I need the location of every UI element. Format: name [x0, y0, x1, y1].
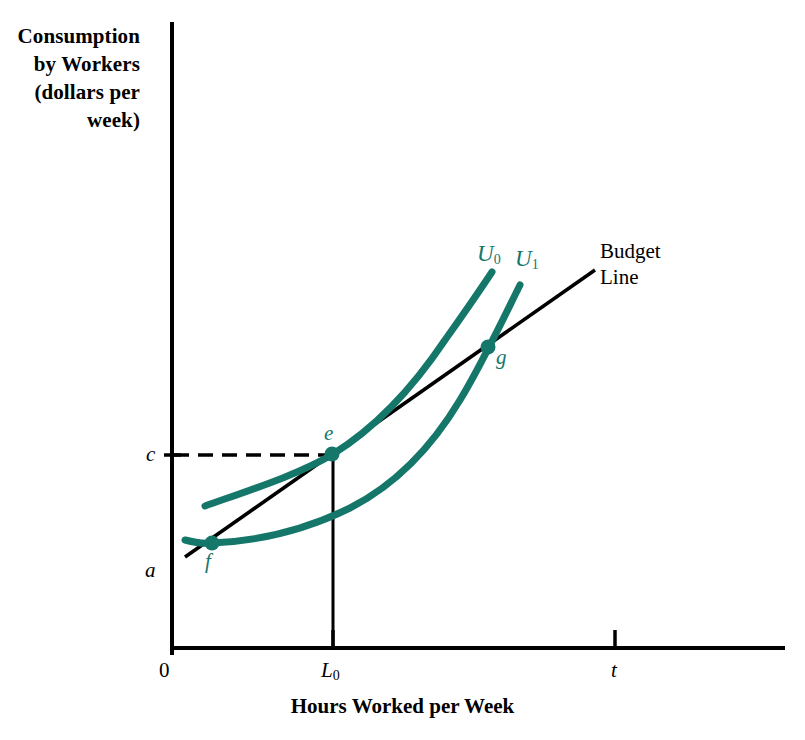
curve-label-u0-text: U — [477, 241, 494, 266]
curve-label-u1: U1 — [515, 246, 539, 273]
y-axis-title: Consumption by Workers (dollars per week… — [4, 22, 140, 134]
curve-label-u1-text: U — [515, 246, 532, 271]
x-axis-title: Hours Worked per Week — [0, 694, 805, 719]
curve-label-u1-sub: 1 — [532, 257, 539, 272]
point-g-marker — [481, 340, 496, 355]
curve-label-u0: U0 — [477, 241, 501, 268]
indifference-curve-u1 — [185, 285, 520, 543]
y-tick-label-c: c — [146, 442, 155, 467]
indifference-curve-u0 — [205, 272, 492, 506]
point-label-f: f — [205, 549, 211, 574]
x-tick-label-l0-sub: 0 — [333, 668, 340, 683]
budget-line-annotation: Budget Line — [600, 238, 661, 290]
x-tick-label-t: t — [611, 658, 617, 683]
y-tick-label-a: a — [145, 558, 156, 583]
budget-line-annotation-line2: Line — [600, 264, 661, 290]
x-tick-label-zero: 0 — [159, 658, 170, 683]
x-tick-label-l0-text: L — [321, 658, 333, 682]
budget-line — [185, 270, 595, 557]
budget-line-annotation-line1: Budget — [600, 238, 661, 264]
indifference-curve-figure: Consumption by Workers (dollars per week… — [0, 0, 805, 740]
curve-label-u0-sub: 0 — [494, 252, 501, 267]
x-tick-label-l0: L0 — [321, 658, 340, 684]
point-label-g: g — [496, 345, 507, 370]
point-e-marker — [325, 447, 340, 462]
point-label-e: e — [324, 421, 333, 446]
